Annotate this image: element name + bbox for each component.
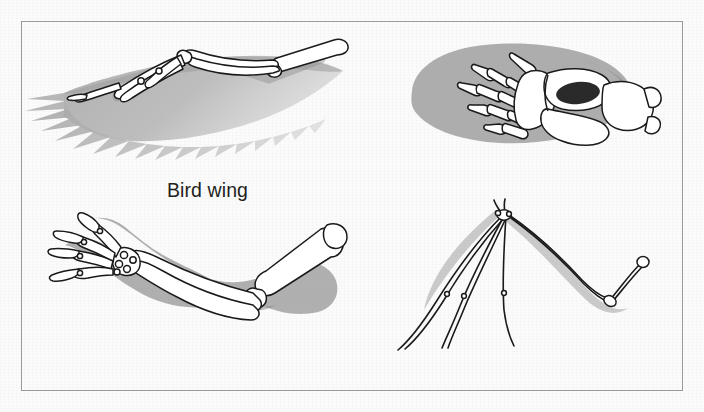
bat-wing-bones xyxy=(398,199,643,350)
bird-wing-skeleton-icon xyxy=(21,21,352,171)
panel-whale-flipper: Whale flipper xyxy=(352,21,683,206)
panel-human-arm: Human arm xyxy=(21,206,352,391)
bat-wing-skeleton-icon xyxy=(352,198,683,353)
bat-wing-membrane-shadow xyxy=(424,210,628,313)
figure-root: Bird wing xyxy=(0,0,704,412)
human-arm-skeleton-icon xyxy=(21,201,352,351)
caption-bird-wing: Bird wing xyxy=(42,179,373,202)
whale-flipper-skeleton-icon xyxy=(352,21,683,171)
panel-bird-wing: Bird wing xyxy=(21,21,352,206)
panel-bat-wing: Bat wing xyxy=(352,206,683,391)
